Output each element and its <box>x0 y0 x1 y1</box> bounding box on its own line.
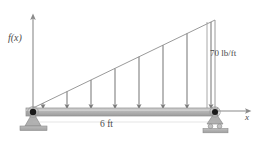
span-length-label: 6 ft <box>100 120 113 130</box>
load-arrow-group <box>43 22 211 107</box>
beam <box>26 108 218 116</box>
y-axis-label: f(x) <box>8 33 22 43</box>
distributed-load-outline <box>33 20 215 108</box>
diagram-canvas: f(x) 70 lb/ft 6 ft x <box>0 0 257 141</box>
x-axis-label: x <box>245 113 249 122</box>
roller-wheel <box>217 124 222 129</box>
beam-diagram-svg <box>0 0 257 141</box>
roller-wheel <box>208 124 213 129</box>
load-intensity-label: 70 lb/ft <box>210 49 236 58</box>
